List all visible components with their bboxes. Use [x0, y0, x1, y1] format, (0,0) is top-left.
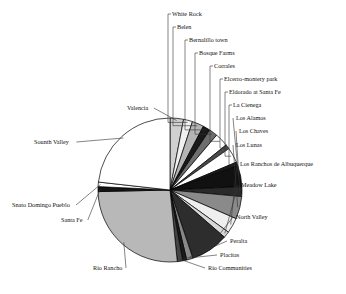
pie-slice[interactable] — [98, 118, 170, 190]
slice-label-white-rock: White Rock — [172, 10, 203, 17]
pie-chart-figure: White RockBelenBernalillo townBosque Far… — [0, 0, 346, 294]
leader-line — [168, 14, 188, 122]
pie-slices-group — [98, 118, 242, 262]
leader-line — [210, 66, 220, 141]
slice-label-bernalillo-town: Bernalillo town — [189, 36, 228, 43]
leader-line — [76, 185, 100, 206]
leader-line — [76, 138, 123, 142]
slice-label-los-alamos: Los Alamos — [236, 114, 266, 121]
slice-label-los-ranchos-de-albuquerque: Los Ranchos de Albuquerque — [240, 160, 313, 167]
slice-label-placitas: Placitas — [220, 251, 240, 258]
slice-label-snato-domingo-pueblo: Snato Domingo Pueblo — [12, 201, 70, 208]
slice-label-bosque-farms: Bosque Farms — [199, 49, 235, 56]
slice-label-meadow-lake: Meadow Lake — [241, 181, 277, 188]
slice-label-la-cienega: La Cienega — [233, 101, 262, 108]
leader-line — [195, 53, 212, 134]
slice-label-north-valley: North Valley — [236, 213, 269, 220]
slice-label-belen: Belen — [177, 23, 191, 30]
slice-label-peralta: Peralta — [230, 237, 247, 244]
slice-label-rio-rancho: Rio Rancho — [93, 264, 122, 271]
pie-slice[interactable] — [98, 190, 177, 262]
slice-label-santa-fe: Santa Fe — [61, 216, 83, 223]
slice-label-sounth-valley: Sounth Valley — [34, 138, 70, 145]
slice-label-los-chaves: Los Chaves — [239, 127, 269, 134]
slice-label-rio-communities: Rio Communities — [208, 264, 252, 271]
pie-chart-svg: White RockBelenBernalillo townBosque Far… — [0, 0, 346, 294]
slice-label-los-lunas: Los Lunas — [236, 141, 263, 148]
slice-label-elcerro-montery-park: Elcerro-montery park — [224, 75, 278, 82]
slice-label-valencia: Valencia — [127, 104, 149, 111]
slice-label-eldorado-at-santa-fe: Eldorado at Santa Fe — [229, 88, 281, 95]
leader-line — [180, 259, 205, 268]
slice-label-corrales: Corrales — [214, 62, 236, 69]
